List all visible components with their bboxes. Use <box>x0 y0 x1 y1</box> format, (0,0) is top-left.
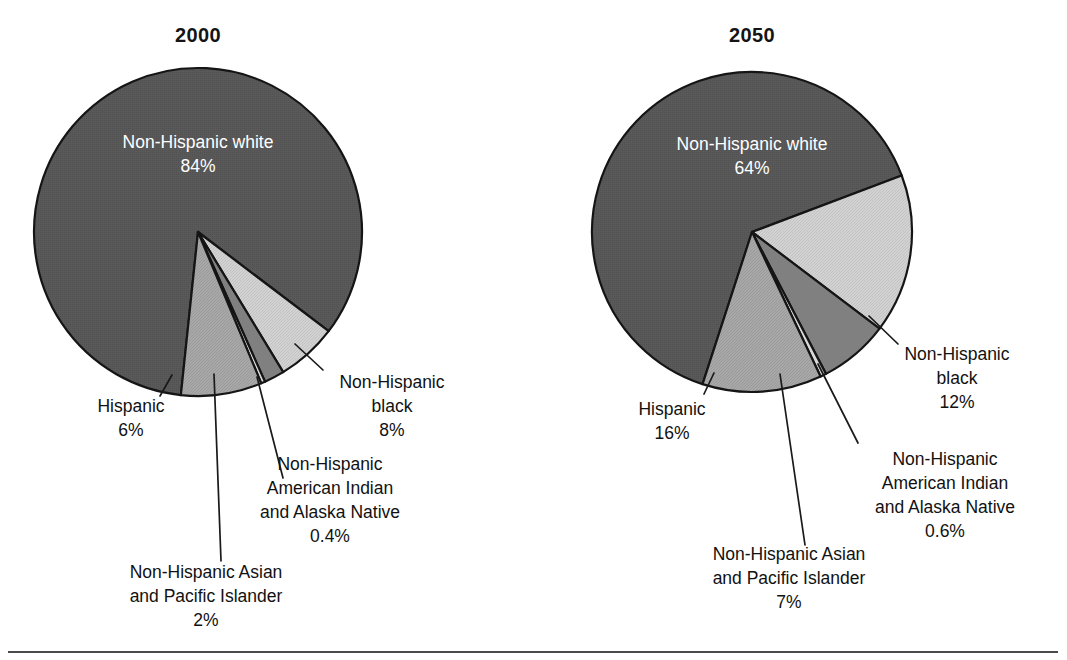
callout-label-line: American Indian <box>267 478 393 498</box>
callout-label-line: Non-Hispanic <box>904 344 1009 364</box>
callout-label-line: Non-Hispanic <box>892 449 997 469</box>
callout-label-line: 2% <box>193 610 218 630</box>
callout-label-line: 7% <box>776 592 801 612</box>
pie-slices <box>34 68 362 396</box>
chart-title: 2000 <box>175 24 221 46</box>
callout-label-line: 16% <box>654 423 689 443</box>
callout-label-line: Non-Hispanic Asian <box>713 544 866 564</box>
callout-label-line: and Alaska Native <box>260 502 400 522</box>
callout-label-line: and Pacific Islander <box>713 568 866 588</box>
callout-label-line: Hispanic <box>638 399 705 419</box>
callout-label-line: Non-Hispanic <box>277 454 382 474</box>
callout-label-line: Non-Hispanic Asian <box>130 562 283 582</box>
callout-label-line: black <box>937 368 978 388</box>
inside-label-name: Non-Hispanic white <box>123 132 274 152</box>
callout-label-line: 12% <box>939 392 974 412</box>
pie-slices <box>592 72 912 392</box>
inside-label-name: Non-Hispanic white <box>677 134 828 154</box>
callout-label-line: and Pacific Islander <box>130 586 283 606</box>
callout-label-line: Non-Hispanic <box>339 372 444 392</box>
callout-label-line: 8% <box>379 420 404 440</box>
callout-label-line: 0.6% <box>925 521 965 541</box>
callout-label-line: American Indian <box>882 473 1008 493</box>
callout-label-line: Hispanic <box>97 396 164 416</box>
callout-label-line: 0.4% <box>310 526 350 546</box>
callout-label-line: and Alaska Native <box>875 497 1015 517</box>
population-pie-chart-figure: 2000Non-Hispanic white84%Hispanic6%Non-H… <box>0 0 1067 660</box>
inside-label-value: 84% <box>180 156 215 176</box>
callout-label-line: 6% <box>118 420 143 440</box>
chart-title: 2050 <box>729 24 775 46</box>
inside-label-value: 64% <box>734 158 769 178</box>
callout-label-line: black <box>372 396 413 416</box>
